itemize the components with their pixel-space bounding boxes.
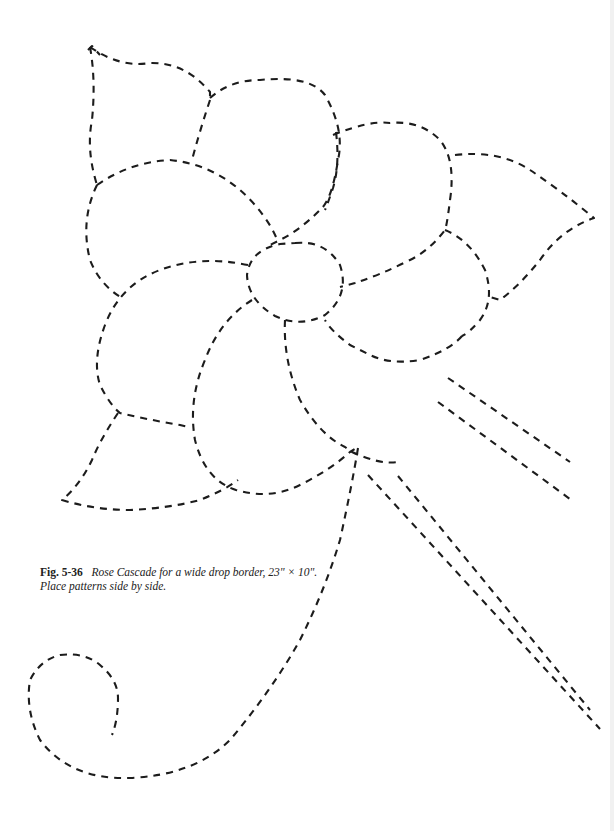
center-circle — [247, 243, 343, 322]
stem-upper-right — [448, 378, 570, 462]
curl-tendril — [29, 448, 358, 778]
right-leaf — [455, 154, 594, 300]
bottom-petal — [193, 300, 358, 494]
top-petal-left-edge — [192, 100, 210, 160]
lower-left-leaf — [62, 413, 238, 510]
stem-down-inner — [368, 475, 600, 729]
upper-right-petal — [333, 123, 452, 288]
left-upper-petal — [86, 160, 278, 298]
figure-label: Fig. 5-36 — [40, 566, 83, 578]
stem-down-outer — [398, 476, 590, 710]
rose-cascade-pattern — [0, 0, 614, 831]
right-petal — [325, 230, 489, 362]
left-lower-petal — [97, 261, 248, 427]
figure-caption: Fig. 5-36 Rose Cascade for a wide drop b… — [40, 565, 320, 593]
upper-right-petal-inner — [325, 132, 337, 210]
top-petal — [210, 79, 340, 245]
upper-left-leaf — [90, 47, 210, 185]
bottom-petal-right-edge — [285, 320, 398, 463]
